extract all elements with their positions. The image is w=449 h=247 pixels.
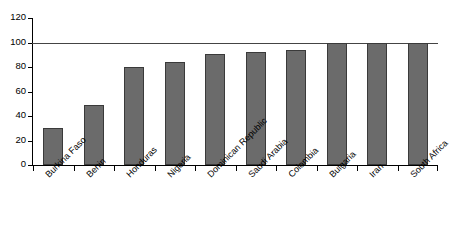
x-tick-label: Bulgaria (328, 150, 358, 180)
x-tick-label: Saudi Arabia (247, 137, 289, 179)
x-tick-label: Colombia (287, 146, 320, 179)
x-tick-label: Iran (368, 162, 385, 179)
x-tick-label: Nigeria (166, 153, 193, 180)
x-tick-label: South Africa (409, 139, 449, 180)
x-tick-label: Honduras (125, 145, 159, 179)
x-tick-label: Benin (85, 157, 108, 180)
x-tick-label: Burkina Faso (44, 136, 88, 180)
